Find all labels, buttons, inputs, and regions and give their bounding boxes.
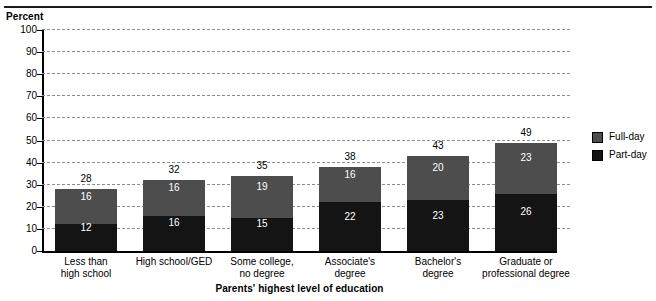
gridline: 30 [42,184,570,185]
y-axis-title: Percent [6,11,43,22]
y-tick-label: 80 [26,69,37,79]
y-tick-mark [37,163,42,164]
x-tick-label: High school/GED [130,256,218,268]
bar-value-label-part-day: 23 [407,211,469,221]
gridline: 100 [42,29,570,30]
y-tick-label: 10 [26,224,37,234]
x-tick-label: Less thanhigh school [42,256,130,279]
header-rule [4,6,652,8]
y-tick-mark [37,74,42,75]
gridline: 10 [42,228,570,229]
bar-value-label-full-day: 16 [319,170,381,180]
bar-segment-full-day [495,143,557,194]
legend-label-full-day: Full-day [609,132,645,142]
y-tick-label: 30 [26,180,37,190]
bar-total-label: 32 [143,165,205,175]
x-tick-label-line: degree [394,268,482,280]
legend-swatch-full-day-icon [592,132,603,143]
bar-segment-part-day [495,194,557,251]
y-tick-mark [37,229,42,230]
y-tick-mark [37,96,42,97]
x-tick-label-line: professional degree [482,268,570,280]
bar-value-label-part-day: 16 [143,218,205,228]
x-tick-label-line: Bachelor's [394,256,482,268]
y-tick-mark [37,52,42,53]
bar-value-label-part-day: 12 [55,223,117,233]
y-tick-label: 70 [26,91,37,101]
x-tick-label: Graduate orprofessional degree [482,256,570,279]
y-tick-label: 100 [20,25,37,35]
plot-area: 0102030405060708090100 12162816163215193… [42,30,570,251]
gridline: 20 [42,206,570,207]
gridline: 80 [42,73,570,74]
bar-segment-part-day [319,202,381,251]
y-tick-mark [37,118,42,119]
legend: Full-day Part-day [592,128,647,164]
x-tick-label-line: high school [42,268,130,280]
gridline: 60 [42,117,570,118]
y-tick-mark [37,30,42,31]
y-tick-mark [37,141,42,142]
bar-value-label-full-day: 16 [55,192,117,202]
bar-value-label-part-day: 15 [231,219,293,229]
gridline: 50 [42,140,570,141]
bar-value-label-full-day: 16 [143,183,205,193]
bar-value-label-part-day: 26 [495,207,557,217]
legend-label-part-day: Part-day [609,150,647,160]
y-tick-mark [37,251,42,252]
legend-swatch-part-day-icon [592,150,603,161]
chart-figure: Percent 0102030405060708090100 121628161… [0,0,656,301]
bar-total-label: 28 [55,174,117,184]
bar-value-label-part-day: 22 [319,212,381,222]
bar-value-label-full-day: 23 [495,153,557,163]
x-tick-label: Some college,no degree [218,256,306,279]
gridline: 40 [42,162,570,163]
x-tick-label-line: degree [306,268,394,280]
bar-value-label-full-day: 19 [231,182,293,192]
bar-total-label: 35 [231,161,293,171]
x-tick-label: Associate'sdegree [306,256,394,279]
y-tick-mark [37,185,42,186]
x-tick-label-line: High school/GED [130,256,218,268]
x-tick-label-line: Some college, [218,256,306,268]
legend-item-part-day: Part-day [592,146,647,164]
y-tick-label: 20 [26,202,37,212]
x-tick-label-line: no degree [218,268,306,280]
y-tick-label: 50 [26,136,37,146]
y-tick-label: 90 [26,47,37,57]
x-axis-title: Parents' highest level of education [42,283,557,294]
x-tick-label-line: Associate's [306,256,394,268]
bar-total-label: 49 [495,128,557,138]
gridline: 90 [42,51,570,52]
x-tick-label-line: Graduate or [482,256,570,268]
x-axis-line [42,251,557,253]
x-tick-label: Bachelor'sdegree [394,256,482,279]
y-tick-mark [37,207,42,208]
y-tick-label: 40 [26,158,37,168]
bar-value-label-full-day: 20 [407,163,469,173]
legend-item-full-day: Full-day [592,128,647,146]
gridline: 70 [42,95,570,96]
y-tick-label: 60 [26,113,37,123]
bar-total-label: 38 [319,152,381,162]
x-tick-label-line: Less than [42,256,130,268]
bar-segment-part-day [407,200,469,251]
bar-total-label: 43 [407,141,469,151]
